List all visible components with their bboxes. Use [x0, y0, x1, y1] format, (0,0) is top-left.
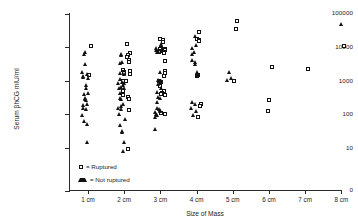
point-not-ruptured — [189, 106, 193, 110]
point-not-ruptured — [123, 117, 127, 121]
point-ruptured — [127, 60, 131, 64]
point-not-ruptured — [225, 78, 229, 82]
point-not-ruptured — [158, 109, 162, 113]
x-tick-label: 6 cm — [249, 196, 289, 203]
y-tick-label: 100000 — [291, 10, 353, 16]
y-tick-label: 1000 — [291, 78, 353, 84]
x-tick-label: 7 cm — [285, 196, 325, 203]
point-not-ruptured — [339, 22, 343, 26]
point-not-ruptured — [122, 72, 126, 76]
open-square-icon — [79, 165, 83, 169]
point-not-ruptured — [120, 130, 124, 134]
point-not-ruptured — [119, 107, 123, 111]
point-not-ruptured — [229, 76, 233, 80]
x-tick-mark — [341, 190, 342, 194]
point-not-ruptured — [119, 97, 123, 101]
x-tick-mark — [124, 190, 125, 194]
point-not-ruptured — [84, 107, 88, 111]
x-tick-mark — [269, 190, 270, 194]
x-tick-mark — [197, 190, 198, 194]
x-tick-label: 5 cm — [213, 196, 253, 203]
x-tick-mark — [160, 190, 161, 194]
point-not-ruptured — [153, 115, 157, 119]
x-tick-label: 8 cm — [321, 196, 358, 203]
y-tick-mark — [65, 191, 70, 192]
point-not-ruptured — [194, 43, 198, 47]
point-not-ruptured — [118, 61, 122, 65]
x-tick-mark — [88, 190, 89, 194]
point-ruptured — [162, 74, 166, 78]
point-not-ruptured — [227, 70, 231, 74]
point-ruptured — [128, 72, 132, 76]
y-tick-mark — [65, 81, 70, 82]
point-not-ruptured — [86, 91, 90, 95]
y-tick-label: 10 — [291, 145, 353, 151]
point-not-ruptured — [83, 62, 87, 66]
point-not-ruptured — [86, 76, 90, 80]
point-ruptured — [342, 44, 346, 48]
filled-triangle-icon — [78, 178, 87, 182]
point-not-ruptured — [119, 53, 123, 57]
point-not-ruptured — [117, 86, 121, 90]
legend-item-ruptured: = Ruptured — [78, 160, 188, 173]
y-tick-mark — [65, 14, 70, 15]
point-not-ruptured — [195, 73, 199, 77]
point-ruptured — [127, 97, 131, 101]
y-tick-label: 0 — [291, 187, 353, 193]
point-not-ruptured — [193, 34, 197, 38]
x-tick-mark — [233, 190, 234, 194]
x-tick-label: 1 cm — [68, 196, 108, 203]
point-not-ruptured — [122, 86, 126, 90]
point-not-ruptured — [80, 113, 84, 117]
x-axis-title: Size of Mass — [69, 210, 341, 218]
point-ruptured — [89, 44, 93, 48]
point-not-ruptured — [85, 140, 89, 144]
y-tick-mark — [65, 148, 70, 149]
point-not-ruptured — [117, 112, 121, 116]
y-tick-mark — [65, 114, 70, 115]
legend-label-ruptured: = Ruptured — [86, 163, 117, 170]
point-not-ruptured — [155, 90, 159, 94]
point-ruptured — [306, 67, 310, 71]
x-tick-label: 4 cm — [177, 196, 217, 203]
point-ruptured — [127, 108, 131, 112]
legend-label-not-ruptured: = Not ruptured — [90, 176, 130, 183]
point-ruptured — [162, 51, 166, 55]
y-tick-mark — [65, 47, 70, 48]
point-ruptured — [198, 104, 202, 108]
point-ruptured — [163, 112, 167, 116]
point-not-ruptured — [118, 123, 122, 127]
point-not-ruptured — [159, 86, 163, 90]
point-ruptured — [267, 98, 271, 102]
point-not-ruptured — [153, 127, 157, 131]
y-axis-line — [69, 13, 70, 191]
point-not-ruptured — [84, 86, 88, 90]
point-not-ruptured — [190, 52, 194, 56]
point-not-ruptured — [155, 100, 159, 104]
point-not-ruptured — [121, 149, 125, 153]
point-not-ruptured — [191, 113, 195, 117]
point-not-ruptured — [85, 122, 89, 126]
point-ruptured — [163, 59, 167, 63]
point-ruptured — [196, 115, 200, 119]
point-not-ruptured — [116, 81, 120, 85]
point-not-ruptured — [159, 42, 163, 46]
point-not-ruptured — [118, 91, 122, 95]
point-ruptured — [266, 109, 270, 113]
point-not-ruptured — [158, 70, 162, 74]
x-tick-mark — [305, 190, 306, 194]
chart-legend: = Ruptured = Not ruptured — [78, 160, 188, 186]
point-not-ruptured — [82, 52, 86, 56]
legend-item-not-ruptured: = Not ruptured — [78, 173, 188, 186]
point-not-ruptured — [193, 102, 197, 106]
y-axis-title: Serum βhCG mIU/ml — [13, 44, 21, 154]
point-not-ruptured — [81, 75, 85, 79]
point-ruptured — [270, 65, 274, 69]
x-tick-label: 2 cm — [104, 196, 144, 203]
point-ruptured — [234, 27, 238, 31]
point-ruptured — [163, 93, 167, 97]
point-not-ruptured — [193, 62, 197, 66]
point-ruptured — [125, 42, 129, 46]
y-tick-label: 100 — [291, 111, 353, 117]
